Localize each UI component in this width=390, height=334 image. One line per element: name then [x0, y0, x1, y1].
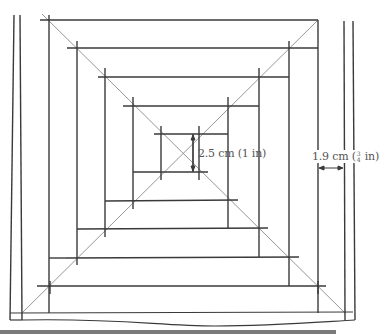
margin-cm: 1.9 cm [312, 150, 348, 163]
bottom-gray-bar [0, 330, 336, 334]
right-fabric-edge [344, 21, 355, 320]
inner-dimension-arrow [191, 135, 195, 171]
concentric-squares-diagram [0, 0, 390, 334]
inner-spacing-cm: 2.5 cm [198, 147, 234, 160]
margin-dimension-arrow [319, 166, 343, 170]
square-2 [49, 41, 318, 286]
outer-square [37, 15, 326, 313]
square-3 [77, 68, 289, 257]
margin-label: 1.9 cm (34 in) [312, 150, 379, 163]
bottom-fabric-edge [10, 312, 355, 326]
inner-spacing-label: 2.5 cm (1 in) [198, 147, 266, 160]
diagonal-lines [22, 14, 345, 313]
inner-spacing-in: (1 in) [238, 147, 266, 160]
margin-in-open: ( [352, 150, 356, 163]
margin-fraction: 34 [357, 151, 361, 163]
left-fabric-edge [10, 15, 22, 320]
margin-in-close: in) [365, 150, 379, 163]
